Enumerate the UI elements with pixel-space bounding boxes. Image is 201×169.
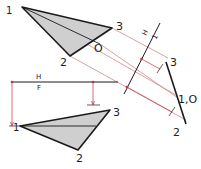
aux-label-2: 2 <box>173 126 180 139</box>
front-label-3: 3 <box>113 106 120 119</box>
fold-line-h1: H 1 <box>124 23 160 94</box>
top-label-3: 3 <box>116 20 123 33</box>
front-view-triangle: 1 3 2 <box>13 106 120 165</box>
aux-label-3: 3 <box>170 56 177 69</box>
front-label-2: 2 <box>76 152 83 165</box>
top-label-1: 1 <box>6 5 12 16</box>
front-label-1: 1 <box>13 122 19 133</box>
fold-line-hf: H F <box>11 73 118 92</box>
top-label-O: O <box>94 42 103 55</box>
top-view-triangle: 1 3 2 O <box>6 5 123 69</box>
fold-hf-label-f: F <box>37 84 41 92</box>
aux-label-1O: 1,O <box>178 93 197 106</box>
descriptive-geometry-drawing: 1 3 2 O H F H 1 3 1,O 2 <box>0 0 201 169</box>
fold-hf-label-h: H <box>36 73 41 81</box>
top-label-2: 2 <box>60 56 67 69</box>
auxiliary-view-edge: 3 1,O 2 <box>166 56 197 139</box>
fold-h1-label-h: H <box>141 29 151 37</box>
